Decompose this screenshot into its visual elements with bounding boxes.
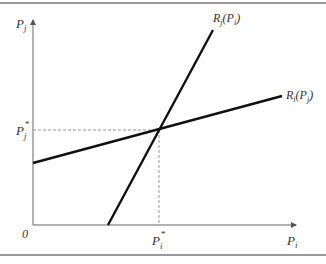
equilibrium-x-tick-label: Pi* <box>151 229 165 251</box>
equilibrium-y-tick-label: Pj* <box>15 119 29 141</box>
curve-Rj-label: Rj(Pi) <box>212 11 240 27</box>
y-axis-label: Pj <box>15 16 27 33</box>
x-axis-label: Pi <box>286 233 298 250</box>
curve-Ri-label: Ri(Pj) <box>285 88 313 104</box>
origin-label: 0 <box>22 227 28 241</box>
reaction-function-diagram: Pj Pi 0 Pj* Pi* Rj(Pi) Ri(Pj) <box>0 0 326 264</box>
